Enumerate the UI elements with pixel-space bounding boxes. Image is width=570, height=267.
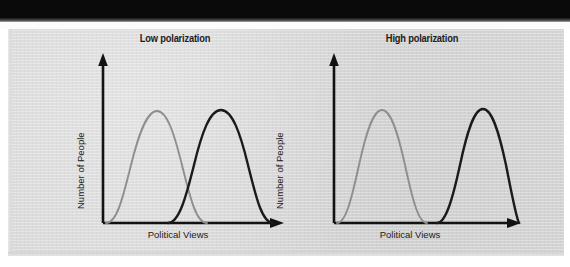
plot-area-low <box>55 47 295 237</box>
x-axis-label-high: Political Views <box>320 229 500 240</box>
curve-high-group-b <box>437 109 519 223</box>
plot-area-high <box>312 47 552 237</box>
curve-low-group-b <box>168 110 273 223</box>
y-axis-arrow-icon-high <box>329 53 339 66</box>
chart-high-polarization: High polarization Number of People Polit… <box>312 29 570 256</box>
x-axis-label-low: Political Views <box>88 229 268 240</box>
chart-title-low: Low polarization <box>82 33 268 44</box>
curve-high-group-a <box>337 110 427 223</box>
panel-left-edge <box>8 29 11 256</box>
curve-low-group-a <box>106 111 207 223</box>
chart-title-high: High polarization <box>329 33 515 44</box>
y-axis-label-low: Number of People <box>75 132 86 209</box>
white-gutter <box>0 22 570 29</box>
figure-root: Low polarization Number of People Politi… <box>0 0 570 267</box>
y-axis-arrow-icon-low <box>98 53 108 66</box>
y-axis-label-high: Number of People <box>274 132 285 209</box>
